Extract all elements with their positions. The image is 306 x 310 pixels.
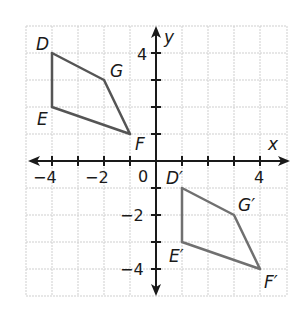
x-axis-label: x xyxy=(267,134,279,154)
vertex-label-d-prime: D′ xyxy=(166,168,183,188)
coordinate-plane: x y 0 −4 −2 4 4 −2 −4 D G F E D′ G′ F′ E… xyxy=(0,0,306,310)
x-tick-label: 4 xyxy=(254,168,264,187)
x-axis xyxy=(34,156,282,166)
vertex-label-f: F xyxy=(135,134,145,154)
y-tick-label: −2 xyxy=(120,206,144,225)
vertex-label-g-prime: G′ xyxy=(238,195,255,215)
y-tick-label: −4 xyxy=(120,260,144,279)
vertex-label-f-prime: F′ xyxy=(264,272,278,292)
vertex-label-d: D xyxy=(36,34,49,54)
x-tick-label: −2 xyxy=(85,168,109,187)
origin-label: 0 xyxy=(138,167,148,186)
vertex-label-e: E xyxy=(37,109,48,129)
vertex-label-g: G xyxy=(110,61,123,81)
x-tick-label: −4 xyxy=(33,168,57,187)
y-tick-label: 4 xyxy=(137,45,147,64)
y-axis-label: y xyxy=(163,27,175,47)
vertex-label-e-prime: E′ xyxy=(169,246,184,266)
